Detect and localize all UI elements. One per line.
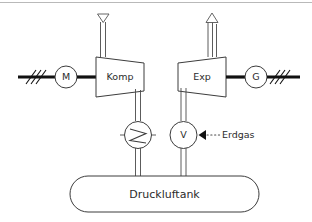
triangle-down-icon <box>98 14 110 23</box>
triangle-up-icon <box>206 13 218 23</box>
valve-label: V <box>180 129 187 140</box>
valve-to-tank-pipe <box>181 148 186 176</box>
air-intake-line <box>101 22 106 57</box>
generator-label: G <box>252 71 259 82</box>
fuel-label: Erdgas <box>222 129 255 140</box>
expander-label: Exp <box>193 71 211 82</box>
process-diagram: M Komp Exp V <box>0 0 312 222</box>
compressor-label: Komp <box>107 71 134 82</box>
motor-label: M <box>62 71 70 82</box>
expander-inlet-pipe <box>181 88 186 121</box>
tank-label: Druckluftank <box>129 188 200 201</box>
fuel-arrow-icon <box>199 130 207 140</box>
heat-exchanger[interactable] <box>125 122 152 149</box>
cooler-to-tank-pipe <box>136 148 141 176</box>
compressor-discharge-pipe <box>136 89 141 121</box>
exhaust-line <box>208 22 217 57</box>
